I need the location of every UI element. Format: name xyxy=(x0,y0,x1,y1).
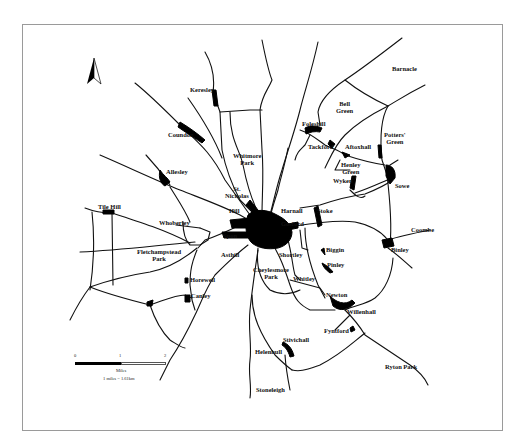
place-label-henley-green-line1: Henley xyxy=(341,161,361,168)
place-label-horewell: Horewell xyxy=(190,276,215,283)
scale-conversion-label: 1 miles = 1.61km xyxy=(103,376,135,381)
place-label-sowe: Sowe xyxy=(395,182,409,189)
place-label-st-nicholas: St. Nicholas xyxy=(225,185,249,199)
place-label-fletchampstead-line1: Fletchampstead xyxy=(137,248,181,255)
scale-tick-1: 1 xyxy=(119,353,121,358)
place-label-newton: Newton xyxy=(326,291,347,298)
scale-tick-0: 0 xyxy=(74,353,76,358)
place-label-hill: Hill xyxy=(229,207,239,214)
scale-bar-black-segment xyxy=(75,362,121,365)
place-label-tackford: Tackford xyxy=(308,143,333,150)
place-label-barnacle: Barnacle xyxy=(392,65,417,72)
place-label-henley-green-line2: Green xyxy=(341,168,361,175)
place-label-wyken: Wyken xyxy=(333,177,353,184)
place-label-shortley: Shortley xyxy=(279,251,302,258)
place-label-allesley: Allesley xyxy=(166,168,188,175)
place-label-gosford: Gosford xyxy=(281,220,304,227)
place-label-whitmore-park: Whitmore Park xyxy=(233,152,261,166)
place-label-st-nicholas-line1: St. xyxy=(225,185,249,192)
place-label-keresley: Keresley xyxy=(190,86,214,93)
place-label-ryton-park: Ryton Park xyxy=(385,363,417,370)
place-label-bell-green: Bell Green xyxy=(336,100,353,114)
place-label-aftoxhall: Aftoxhall xyxy=(345,143,371,150)
place-label-whoberley: Whoberley xyxy=(159,219,190,226)
place-label-cheylesmore-line1: Cheylesmore xyxy=(253,266,289,273)
place-label-biggin: Biggin xyxy=(326,246,344,253)
place-label-cheylesmore-park: Cheylesmore Park xyxy=(253,266,289,280)
place-label-harnall: Harnall xyxy=(281,207,303,214)
place-label-bell-green-line2: Green xyxy=(336,107,353,114)
place-label-spon: Spon xyxy=(223,232,237,239)
place-label-stivichall: Stivichall xyxy=(283,336,309,343)
place-label-potters-green-line1: Potters' xyxy=(384,131,406,138)
place-label-henley-green: Henley Green xyxy=(341,161,361,175)
place-label-stoneleigh: Stoneleigh xyxy=(256,386,285,393)
place-label-whitmore-park-line1: Whitmore xyxy=(233,152,261,159)
place-label-bell-green-line1: Bell xyxy=(336,100,353,107)
place-label-cheylesmore-line2: Park xyxy=(253,273,289,280)
place-label-potters-green: Potters' Green xyxy=(384,131,406,145)
place-label-st-nicholas-line2: Nicholas xyxy=(225,192,249,199)
place-label-binley: Binley xyxy=(391,246,409,253)
scale-bar-white-segment xyxy=(121,362,166,365)
place-label-coombe: Coombe xyxy=(411,226,434,233)
place-label-fyntford: Fyntford xyxy=(324,327,349,334)
place-label-asthill: Asthill xyxy=(221,251,239,258)
place-label-fletchampstead-line2: Park xyxy=(137,255,181,262)
place-label-whitmore-park-line2: Park xyxy=(233,159,261,166)
place-label-stoke: Stoke xyxy=(317,207,333,214)
place-label-coundon: Coundon xyxy=(168,131,194,138)
place-label-tile-hill: Tile Hill xyxy=(98,203,121,210)
place-label-fletchampstead-park: Fletchampstead Park xyxy=(137,248,181,262)
scale-unit-label: Miles xyxy=(116,368,126,373)
place-label-potters-green-line2: Green xyxy=(384,138,406,145)
place-label-willenhall: Willenhall xyxy=(347,308,376,315)
place-label-whitley: Whitley xyxy=(293,275,315,282)
scale-tick-2: 2 xyxy=(164,353,166,358)
place-label-foleshill: Foleshill xyxy=(302,120,325,127)
place-label-canley: Canley xyxy=(191,292,211,299)
place-label-pinley: Pinley xyxy=(327,261,344,268)
place-label-helenhull: Helenhull xyxy=(255,348,282,355)
north-arrow-icon xyxy=(84,56,104,86)
